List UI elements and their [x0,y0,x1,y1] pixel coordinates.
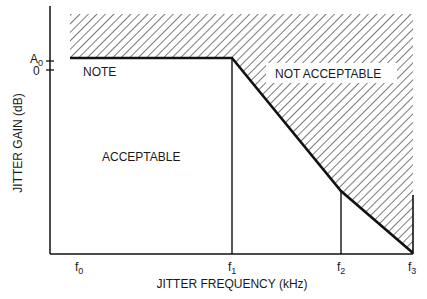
x-tick-label-f0: f0 [75,260,83,276]
not-acceptable-region [70,14,413,254]
x-tick-label-f1: f1 [228,260,236,276]
not-acceptable-label: NOT ACCEPTABLE [275,67,381,81]
x-tick-label-f2: f2 [337,260,345,276]
acceptable-label: ACCEPTABLE [102,150,180,164]
note-label: NOTE [83,65,116,79]
jitter-diagram: NOTE ACCEPTABLE NOT ACCEPTABLE A0 0 JITT… [0,0,427,299]
y-tick-label-0: 0 [33,64,40,78]
y-axis-title: JITTER GAIN (dB) [11,93,25,192]
x-tick-label-f3: f3 [408,260,416,276]
x-axis-title: JITTER FREQUENCY (kHz) [156,277,307,291]
